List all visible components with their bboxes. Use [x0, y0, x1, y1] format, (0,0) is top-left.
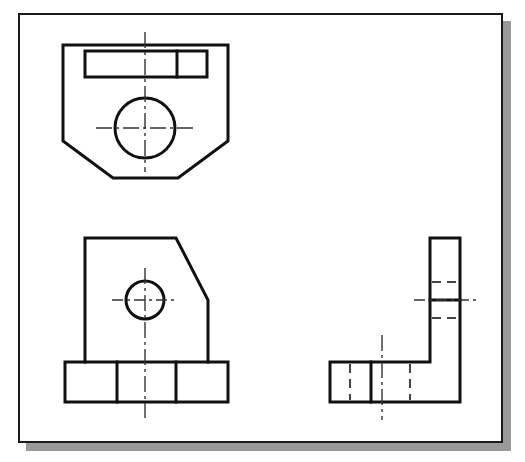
technical-drawing-canvas — [0, 0, 525, 462]
top-view-group — [63, 32, 228, 178]
front-view-base-plate — [65, 362, 228, 402]
front-view-body-outline — [85, 238, 208, 362]
drawing-stage — [0, 0, 525, 462]
right-side-view-outline — [330, 238, 460, 402]
right-side-view-group — [330, 238, 476, 420]
front-view-group — [65, 238, 228, 418]
top-view-slot — [85, 51, 207, 77]
